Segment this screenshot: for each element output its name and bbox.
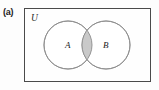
universe-label: U [31,13,39,23]
venn-diagram-figure: (a) U A B [0,0,159,90]
set-label-b: B [103,40,109,50]
venn-diagram-canvas: U A B [0,0,159,90]
set-label-a: A [64,40,71,50]
